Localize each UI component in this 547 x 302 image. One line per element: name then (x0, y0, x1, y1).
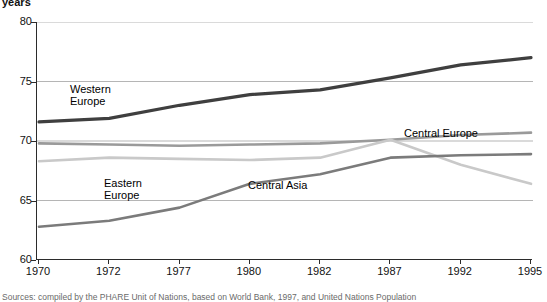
x-axis-tick-label: 1980 (237, 265, 261, 277)
x-axis-tick-label: 1995 (518, 265, 542, 277)
y-axis-unit-label: years (2, 0, 31, 8)
x-axis-tick-mark (389, 260, 390, 264)
plot-area (36, 22, 532, 260)
series-label-eastern-europe: Eastern Europe (104, 178, 142, 201)
x-axis-tick-mark (179, 260, 180, 264)
series-label-central-asia: Central Asia (248, 180, 307, 192)
x-axis-tick-mark (319, 260, 320, 264)
x-axis-ticks: 19701972197719801982198719921995 (0, 260, 547, 284)
y-axis-tick-label: 70 (2, 134, 32, 146)
x-axis-tick-label: 1972 (96, 265, 120, 277)
x-axis-tick-label: 1992 (447, 265, 471, 277)
series-line-western-europe (39, 58, 531, 122)
y-axis-tick-label: 65 (2, 194, 32, 206)
chart-svg (37, 22, 533, 260)
chart-root: years 6065707580 19701972197719801982198… (0, 0, 547, 302)
source-footnote: Sources: compiled by the PHARE Unit of N… (2, 292, 547, 302)
x-axis-tick-mark (108, 260, 109, 264)
series-label-western-europe: Western Europe (70, 84, 111, 107)
x-axis-tick-mark (530, 260, 531, 264)
x-axis-tick-label: 1970 (26, 265, 50, 277)
y-axis-tick-label: 75 (2, 75, 32, 87)
x-axis-tick-label: 1977 (166, 265, 190, 277)
x-axis-tick-mark (38, 260, 39, 264)
series-label-central-europe: Central Europe (404, 128, 478, 140)
x-axis-tick-mark (460, 260, 461, 264)
y-axis-tick-label: 80 (2, 15, 32, 27)
x-axis-tick-label: 1982 (307, 265, 331, 277)
x-axis-tick-label: 1987 (377, 265, 401, 277)
x-axis-tick-mark (249, 260, 250, 264)
